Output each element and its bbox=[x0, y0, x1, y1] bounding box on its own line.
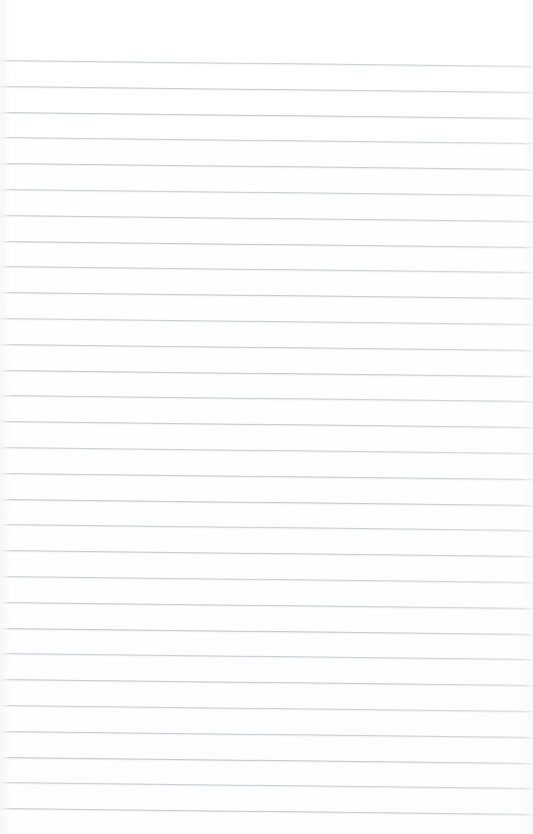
lined-paper-page bbox=[0, 0, 533, 834]
rule-line bbox=[0, 344, 533, 351]
rule-line bbox=[0, 370, 533, 377]
ruled-lines-layer bbox=[0, 0, 533, 834]
rule-line bbox=[0, 473, 533, 480]
rule-line bbox=[0, 189, 533, 196]
rule-line bbox=[0, 112, 533, 119]
rule-line bbox=[0, 318, 533, 325]
rule-line bbox=[0, 576, 533, 583]
rule-line bbox=[0, 447, 533, 454]
rule-line bbox=[0, 757, 533, 764]
rule-line bbox=[0, 731, 533, 738]
rule-line bbox=[0, 215, 533, 222]
rule-line bbox=[0, 705, 533, 712]
rule-line bbox=[0, 602, 533, 609]
rule-line bbox=[0, 86, 533, 93]
rule-line bbox=[0, 241, 533, 248]
rule-line bbox=[0, 60, 533, 67]
rule-line bbox=[0, 499, 533, 506]
rule-line bbox=[0, 628, 533, 635]
